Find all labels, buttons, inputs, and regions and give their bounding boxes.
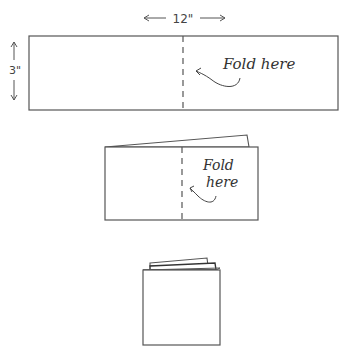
width-label: 12" — [173, 12, 194, 26]
fold-label-line1: Fold — [202, 157, 234, 173]
height-label: 3" — [9, 64, 21, 77]
book-cover — [143, 270, 220, 345]
back-flap — [105, 135, 249, 147]
fold-here-label: Fold here — [222, 55, 295, 73]
folding-diagram: 12" 3" Fold here Fold here — [0, 0, 355, 353]
fold-label-line2: here — [206, 174, 238, 190]
step2-folded: Fold here — [105, 135, 258, 220]
step1-strip: 12" 3" Fold here — [9, 12, 338, 110]
curved-arrow-icon — [196, 71, 240, 87]
step3-book — [143, 258, 220, 345]
